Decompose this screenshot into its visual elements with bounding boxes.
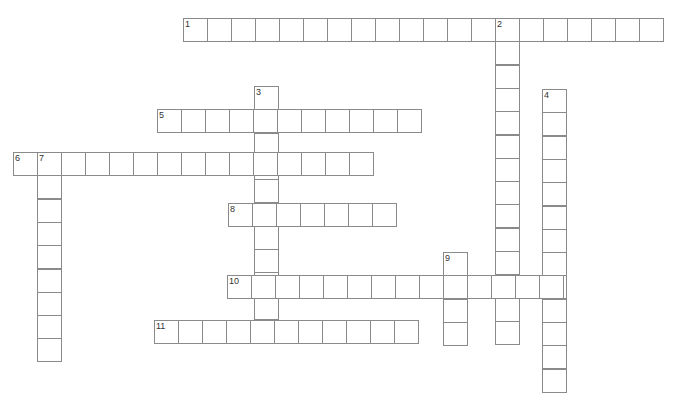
crossword-cell-11-across-7[interactable] [298,320,323,344]
crossword-cell-10-across-8[interactable] [395,275,420,299]
crossword-cell-5-across-9[interactable] [349,109,374,133]
crossword-cell-5-across-5[interactable] [253,109,278,133]
crossword-cell-1-across-19[interactable] [615,18,640,42]
crossword-cell-10-across-3[interactable] [275,275,300,299]
crossword-cell-10-across-6[interactable] [347,275,372,299]
crossword-cell-2-down-2[interactable] [495,41,520,65]
crossword-cell-6-across-7[interactable] [157,152,182,176]
crossword-cell-1-across-3[interactable] [231,18,256,42]
crossword-cell-8-across-5[interactable] [324,203,349,227]
crossword-cell-9-down-1[interactable]: 9 [443,252,468,276]
crossword-cell-1-across-12[interactable] [447,18,472,42]
crossword-cell-2-down-14[interactable] [495,321,520,345]
crossword-cell-7-down-1[interactable]: 7 [37,152,62,176]
crossword-cell-10-across-5[interactable] [323,275,348,299]
crossword-cell-10-across-9[interactable] [419,275,444,299]
crossword-cell-4-down-3[interactable] [542,136,567,160]
crossword-cell-10-across-2[interactable] [251,275,276,299]
crossword-cell-8-across-6[interactable] [348,203,373,227]
crossword-cell-6-across-1[interactable]: 6 [13,152,38,176]
crossword-cell-10-across-7[interactable] [371,275,396,299]
crossword-cell-10-across-13[interactable] [515,275,540,299]
crossword-cell-6-across-3[interactable] [61,152,86,176]
crossword-cell-1-across-10[interactable] [399,18,424,42]
crossword-cell-5-across-10[interactable] [373,109,398,133]
crossword-cell-10-across-1[interactable]: 10 [227,275,252,299]
crossword-cell-10-across-10[interactable] [443,275,468,299]
crossword-cell-1-across-17[interactable] [567,18,592,42]
crossword-cell-3-down-8[interactable] [254,249,279,273]
crossword-cell-1-across-15[interactable] [519,18,544,42]
crossword-cell-9-down-3[interactable] [443,299,468,323]
crossword-cell-3-down-7[interactable] [254,226,279,250]
crossword-cell-7-down-5[interactable] [37,245,62,269]
crossword-cell-6-across-10[interactable] [229,152,254,176]
crossword-cell-4-down-13[interactable] [542,369,567,393]
crossword-cell-4-down-11[interactable] [542,322,567,346]
crossword-cell-4-down-12[interactable] [542,345,567,369]
crossword-cell-2-down-4[interactable] [495,88,520,112]
crossword-cell-6-across-8[interactable] [181,152,206,176]
crossword-cell-8-across-7[interactable] [372,203,397,227]
crossword-cell-5-across-8[interactable] [325,109,350,133]
crossword-cell-11-across-2[interactable] [178,320,203,344]
crossword-cell-1-across-7[interactable] [327,18,352,42]
crossword-cell-1-across-1[interactable]: 1 [183,18,208,42]
crossword-cell-3-down-10[interactable] [254,296,279,320]
crossword-cell-6-across-4[interactable] [85,152,110,176]
crossword-cell-8-across-2[interactable] [252,203,277,227]
crossword-cell-4-down-2[interactable] [542,112,567,136]
crossword-cell-4-down-1[interactable]: 4 [542,89,567,113]
crossword-cell-1-across-9[interactable] [375,18,400,42]
crossword-cell-2-down-13[interactable] [495,298,520,322]
crossword-cell-10-across-11[interactable] [467,275,492,299]
crossword-cell-5-across-2[interactable] [181,109,206,133]
crossword-cell-2-down-5[interactable] [495,111,520,135]
crossword-cell-1-across-11[interactable] [423,18,448,42]
crossword-cell-4-down-8[interactable] [542,252,567,276]
crossword-cell-5-across-6[interactable] [277,109,302,133]
crossword-cell-3-down-1[interactable]: 3 [254,86,279,110]
crossword-cell-4-down-6[interactable] [542,206,567,230]
crossword-cell-7-down-6[interactable] [37,269,62,293]
crossword-cell-1-across-16[interactable] [543,18,568,42]
crossword-cell-7-down-3[interactable] [37,199,62,223]
crossword-cell-6-across-12[interactable] [277,152,302,176]
crossword-cell-6-across-11[interactable] [253,152,278,176]
crossword-cell-5-across-3[interactable] [205,109,230,133]
crossword-cell-7-down-9[interactable] [37,338,62,362]
crossword-cell-3-down-5[interactable] [254,179,279,203]
crossword-cell-7-down-7[interactable] [37,292,62,316]
crossword-cell-6-across-6[interactable] [133,152,158,176]
crossword-cell-6-across-5[interactable] [109,152,134,176]
crossword-cell-1-across-20[interactable] [639,18,664,42]
crossword-cell-10-across-14[interactable] [539,275,564,299]
crossword-cell-11-across-10[interactable] [370,320,395,344]
crossword-cell-1-across-13[interactable] [471,18,496,42]
crossword-cell-1-across-8[interactable] [351,18,376,42]
crossword-cell-7-down-8[interactable] [37,315,62,339]
crossword-cell-1-across-6[interactable] [303,18,328,42]
crossword-cell-4-down-7[interactable] [542,229,567,253]
crossword-cell-9-down-4[interactable] [443,322,468,346]
crossword-cell-11-across-4[interactable] [226,320,251,344]
crossword-cell-4-down-10[interactable] [542,299,567,323]
crossword-cell-2-down-6[interactable] [495,135,520,159]
crossword-cell-10-across-12[interactable] [491,275,516,299]
crossword-cell-5-across-7[interactable] [301,109,326,133]
crossword-cell-7-down-2[interactable] [37,175,62,199]
crossword-cell-7-down-4[interactable] [37,222,62,246]
crossword-cell-11-across-1[interactable]: 11 [154,320,179,344]
crossword-cell-11-across-3[interactable] [202,320,227,344]
crossword-cell-2-down-10[interactable] [495,228,520,252]
crossword-cell-6-across-9[interactable] [205,152,230,176]
crossword-cell-1-across-5[interactable] [279,18,304,42]
crossword-cell-2-down-7[interactable] [495,158,520,182]
crossword-cell-2-down-11[interactable] [495,251,520,275]
crossword-cell-2-down-3[interactable] [495,65,520,89]
crossword-cell-1-across-18[interactable] [591,18,616,42]
crossword-cell-8-across-1[interactable]: 8 [228,203,253,227]
crossword-cell-11-across-6[interactable] [274,320,299,344]
crossword-cell-4-down-5[interactable] [542,182,567,206]
crossword-cell-6-across-15[interactable] [349,152,374,176]
